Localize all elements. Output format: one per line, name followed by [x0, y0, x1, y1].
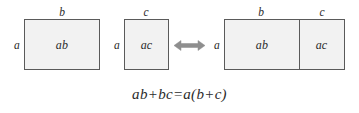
combined-rect-side-label: a	[214, 39, 220, 51]
combined-rect-part-0-inner-label: ab	[225, 37, 299, 52]
diagram-canvas: b a ab c a ac b c a ab ac ab+bc=a(b+c)	[0, 0, 359, 113]
rect-ac-inner-label: ac	[125, 37, 168, 52]
equation-label: ab+bc=a(b+c)	[0, 86, 359, 103]
rect-ac-top-label: c	[143, 6, 148, 18]
combined-rect-part-0-top-label: b	[258, 6, 264, 18]
rect-ab-side-label: a	[14, 39, 20, 51]
rect-ab-top-label: b	[59, 6, 65, 18]
rect-ac-side-label: a	[114, 39, 120, 51]
rect-ab-inner-label: ab	[25, 37, 99, 52]
combined-rect: ab ac	[224, 19, 345, 70]
double-headed-arrow-icon	[174, 37, 205, 54]
combined-rect-part-1-inner-label: ac	[299, 37, 344, 52]
combined-rect-part-1-top-label: c	[319, 6, 324, 18]
rect-ac: ac	[124, 19, 169, 70]
rect-ab: ab	[24, 19, 100, 70]
